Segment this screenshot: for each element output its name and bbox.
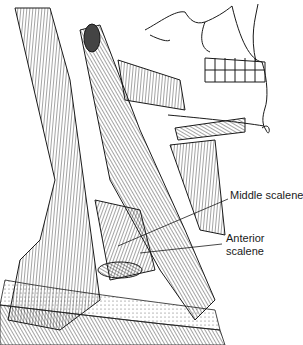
middle-scalene-label: Middle scalene [230, 189, 303, 202]
omohyoid [98, 262, 142, 278]
anatomy-illustration: Middle scalene Anterior scalene [0, 0, 303, 345]
neck-muscle-drawing [0, 0, 303, 345]
digastric [175, 118, 245, 140]
mastoid-process [84, 24, 100, 52]
skull [145, 4, 269, 133]
anterior-scalene-label-line1: Anterior [226, 232, 265, 245]
anterior-scalene-label-line2: scalene [226, 245, 264, 258]
